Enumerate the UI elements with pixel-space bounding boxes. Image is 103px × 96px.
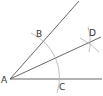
label-c: C <box>59 82 65 92</box>
label-b: B <box>36 29 42 39</box>
label-a: A <box>1 75 8 85</box>
angle-bisector-diagram: A B C D <box>0 0 103 96</box>
label-d: D <box>89 28 96 38</box>
ray-ab <box>10 1 79 79</box>
